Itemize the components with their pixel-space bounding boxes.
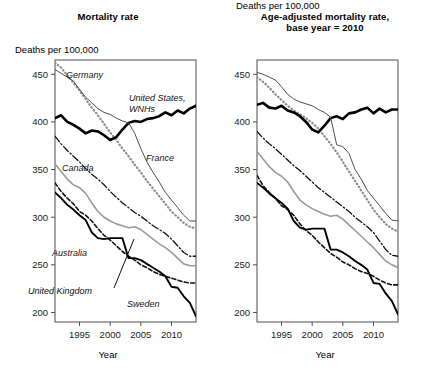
series-line — [257, 72, 398, 221]
y-axis-tick-label: 400 — [234, 116, 250, 127]
series-line — [55, 136, 196, 256]
series-line — [257, 103, 398, 133]
series-group — [257, 72, 398, 314]
series-annotation-sweden: Sweden — [127, 299, 160, 309]
x-axis-tick-label: 2005 — [130, 329, 151, 340]
figure-root: Mortality rate Deaths per 100,000 200250… — [0, 0, 433, 371]
y-axis-tick-label: 400 — [32, 116, 48, 127]
series-annotation-united-states-line2: WNHs — [129, 104, 155, 114]
y-axis-tick-label: 350 — [32, 164, 48, 175]
x-axis-tick-label: 2000 — [100, 329, 121, 340]
series-annotation-australia: Australia — [51, 248, 87, 258]
chart-svg-left: 2002503003504004501995200020052010German… — [0, 0, 216, 371]
y-axis-tick-label: 350 — [234, 164, 250, 175]
x-axis-tick-label: 2000 — [302, 329, 323, 340]
y-axis-tick-label: 450 — [32, 69, 48, 80]
y-axis-tick-label: 200 — [234, 307, 250, 318]
x-axis-tick-label: 2005 — [332, 329, 353, 340]
series-annotation-france: France — [146, 153, 174, 163]
x-axis-tick-label: 2010 — [161, 329, 182, 340]
y-axis-tick-label: 200 — [32, 307, 48, 318]
series-annotation-united-kingdom: United Kingdom — [28, 286, 93, 296]
series-annotation-united-states: United States, — [129, 93, 186, 103]
chart-svg-right: 2002503003504004501995200020052010 — [217, 0, 433, 371]
y-axis-tick-label: 300 — [234, 212, 250, 223]
series-line — [257, 175, 398, 285]
x-axis-tick-label: 2010 — [363, 329, 384, 340]
x-axis-title-left: Year — [0, 349, 216, 360]
series-line — [257, 77, 398, 231]
chart-panel-age-adjusted: Age-adjusted mortality rate, base year =… — [217, 0, 433, 371]
series-line — [55, 106, 196, 140]
y-axis-tick-label: 450 — [234, 69, 250, 80]
series-line — [55, 183, 196, 283]
x-axis-title-right: Year — [217, 349, 433, 360]
chart-panel-mortality-rate: Mortality rate Deaths per 100,000 200250… — [0, 0, 216, 371]
x-axis-tick-label: 1995 — [271, 329, 292, 340]
y-axis-tick-label: 250 — [32, 259, 48, 270]
x-axis-tick-label: 1995 — [69, 329, 90, 340]
y-axis-tick-label: 300 — [32, 212, 48, 223]
series-annotation-canada: Canada — [62, 163, 94, 173]
y-axis-tick-label: 250 — [234, 259, 250, 270]
series-annotation-germany: Germany — [66, 70, 104, 80]
